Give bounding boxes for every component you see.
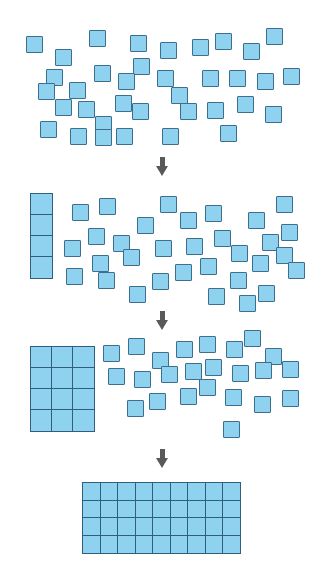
array-unit-square bbox=[205, 482, 224, 501]
array-unit-square bbox=[187, 535, 206, 554]
array-unit-square bbox=[135, 500, 154, 519]
array-unit-square bbox=[170, 482, 189, 501]
array-unit-square bbox=[222, 500, 241, 519]
array-unit-square bbox=[170, 517, 189, 536]
array-building-diagram bbox=[0, 0, 324, 578]
array-unit-square bbox=[117, 500, 136, 519]
array-unit-square bbox=[117, 517, 136, 536]
array-unit-square bbox=[152, 535, 171, 554]
array-unit-square bbox=[135, 535, 154, 554]
array-unit-square bbox=[100, 535, 119, 554]
array-unit-square bbox=[170, 500, 189, 519]
array-unit-square bbox=[82, 500, 101, 519]
array-unit-square bbox=[205, 517, 224, 536]
array-unit-square bbox=[82, 482, 101, 501]
array-unit-square bbox=[100, 500, 119, 519]
array-unit-square bbox=[222, 482, 241, 501]
array-unit-square bbox=[187, 500, 206, 519]
array-unit-square bbox=[222, 535, 241, 554]
array-unit-square bbox=[100, 517, 119, 536]
array-unit-square bbox=[82, 517, 101, 536]
array-unit-square bbox=[187, 517, 206, 536]
array-unit-square bbox=[117, 535, 136, 554]
array-unit-square bbox=[135, 482, 154, 501]
array-unit-square bbox=[205, 500, 224, 519]
array-unit-square bbox=[135, 517, 154, 536]
array-unit-square bbox=[152, 500, 171, 519]
array-unit-square bbox=[152, 482, 171, 501]
stage-4-array-9-by-4 bbox=[83, 483, 241, 553]
array-unit-square bbox=[222, 517, 241, 536]
array-unit-square bbox=[152, 517, 171, 536]
array-unit-square bbox=[187, 482, 206, 501]
array-unit-square bbox=[205, 535, 224, 554]
array-unit-square bbox=[170, 535, 189, 554]
array-unit-square bbox=[100, 482, 119, 501]
stage-4-complete-array bbox=[0, 0, 324, 578]
array-unit-square bbox=[117, 482, 136, 501]
array-unit-square bbox=[82, 535, 101, 554]
